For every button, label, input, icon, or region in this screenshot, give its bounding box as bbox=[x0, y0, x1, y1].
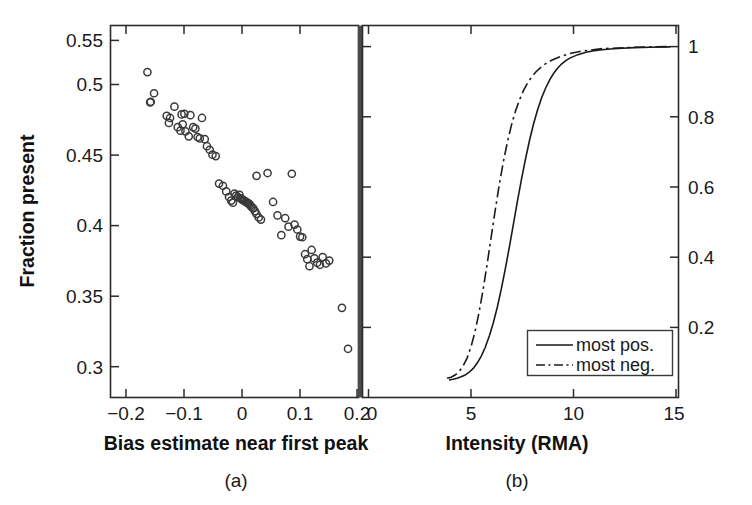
panel-a-ytick-2: 0.4 bbox=[77, 215, 104, 236]
panel-a-caption: (a) bbox=[224, 470, 247, 491]
legend: most pos. most neg. bbox=[528, 331, 673, 376]
panel-b-xlabel: Intensity (RMA) bbox=[446, 432, 589, 454]
panel-b-caption: (b) bbox=[505, 470, 528, 491]
panel-a-ytick-4: 0.5 bbox=[77, 74, 103, 95]
legend-label-most-neg: most neg. bbox=[576, 355, 655, 375]
figure-canvas: 0.3 0.35 0.4 0.45 0.5 0.55 −0.2 −0.1 0 0… bbox=[0, 0, 752, 505]
panel-b-xtick-3: 15 bbox=[663, 403, 684, 424]
panel-b-ytick-3: 0.8 bbox=[688, 107, 714, 128]
panel-b-ytick-2: 0.6 bbox=[688, 177, 714, 198]
panel-a-ytick-3: 0.45 bbox=[66, 145, 103, 166]
figure-background bbox=[0, 0, 752, 505]
panel-a-xtick-3: 0.1 bbox=[287, 403, 313, 424]
panel-a-ytick-5: 0.55 bbox=[66, 30, 103, 51]
panel-a-ytick-1: 0.35 bbox=[66, 286, 103, 307]
panel-b-xtick-2: 10 bbox=[563, 403, 584, 424]
panel-b-xtick-0: 0 bbox=[367, 403, 378, 424]
legend-label-most-pos: most pos. bbox=[576, 335, 654, 355]
figure-panel-pair: 0.3 0.35 0.4 0.45 0.5 0.55 −0.2 −0.1 0 0… bbox=[0, 0, 752, 505]
panel-b-ytick-1: 0.4 bbox=[688, 247, 715, 268]
panel-a-ylabel: Fraction present bbox=[16, 134, 38, 287]
panel-b-ytick-4: 1 bbox=[688, 36, 699, 57]
panel-a-xtick-2: 0 bbox=[237, 403, 248, 424]
panel-b-ytick-0: 0.2 bbox=[688, 317, 714, 338]
panel-a-ytick-0: 0.3 bbox=[77, 357, 103, 378]
panel-a-xtick-1: −0.1 bbox=[165, 403, 203, 424]
panel-a-xtick-0: −0.2 bbox=[107, 403, 145, 424]
panel-a-xlabel: Bias estimate near first peak bbox=[104, 432, 369, 454]
panel-b-xtick-1: 5 bbox=[466, 403, 477, 424]
